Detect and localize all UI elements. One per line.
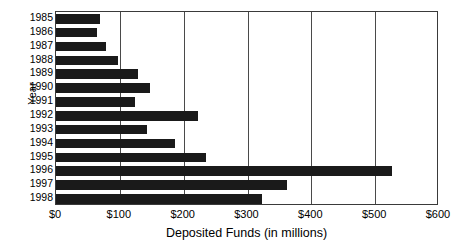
x-tick-label-usd400: $400 [280,207,340,221]
x-axis-title: Deposited Funds (in millions) [55,226,438,241]
y-tick-label-1998: 1998 [14,191,53,205]
y-tick-label-1991: 1991 [14,94,53,108]
bar-1986[interactable] [56,28,97,38]
x-tick-label-usd0: $0 [25,207,85,221]
y-tick-label-1988: 1988 [14,53,53,67]
bar-row [56,40,437,54]
bar-row [56,81,437,95]
bar-1991[interactable] [56,97,135,107]
bar-1985[interactable] [56,14,100,24]
y-tick-label-1995: 1995 [14,150,53,164]
x-tick-label-usd600: $600 [408,207,457,221]
bar-row [56,54,437,68]
bar-row [56,123,437,137]
bar-1992[interactable] [56,111,198,121]
plot-area [55,11,438,205]
bar-chart-figure: Year 19851986198719881989199019911992199… [0,0,457,252]
y-tick-label-1997: 1997 [14,177,53,191]
bar-row [56,192,437,205]
bar-row [56,137,437,151]
y-tick-label-1987: 1987 [14,39,53,53]
x-tick-label-usd300: $300 [217,207,277,221]
bar-1997[interactable] [56,180,287,190]
bar-1995[interactable] [56,153,206,163]
bar-1989[interactable] [56,69,138,79]
y-tick-label-1994: 1994 [14,136,53,150]
bar-row [56,12,437,26]
bar-row [56,151,437,165]
bar-row [56,109,437,123]
bar-1990[interactable] [56,83,150,93]
bar-row [56,67,437,81]
y-tick-label-1990: 1990 [14,80,53,94]
y-tick-label-1989: 1989 [14,66,53,80]
y-tick-label-1985: 1985 [14,11,53,25]
bar-row [56,26,437,40]
bar-1987[interactable] [56,42,106,52]
y-tick-label-1993: 1993 [14,122,53,136]
x-axis-tick-labels: $0$100$200$300$400$500$600 [0,207,457,223]
bar-1996[interactable] [56,166,392,176]
bar-row [56,164,437,178]
y-tick-label-1992: 1992 [14,108,53,122]
y-tick-label-1996: 1996 [14,163,53,177]
bar-1988[interactable] [56,56,118,66]
bar-row [56,178,437,192]
bar-1993[interactable] [56,125,147,135]
bar-1998[interactable] [56,194,262,204]
x-tick-label-usd100: $100 [89,207,149,221]
y-tick-label-1986: 1986 [14,25,53,39]
x-tick-label-usd500: $500 [344,207,404,221]
x-tick-label-usd200: $200 [153,207,213,221]
y-axis-tick-labels: 1985198619871988198919901991199219931994… [14,11,53,205]
bar-1994[interactable] [56,139,175,149]
bar-row [56,95,437,109]
